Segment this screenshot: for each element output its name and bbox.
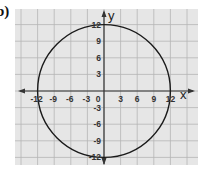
circle-graph: -12-9-6-3036912 12963-3-6-9-12 x y xyxy=(0,0,207,174)
x-tick-label: -12 xyxy=(30,94,43,104)
y-tick-label: 3 xyxy=(96,69,101,79)
y-tick-label: 12 xyxy=(92,20,102,30)
y-tick-label: -3 xyxy=(93,103,101,113)
x-tick-label: 9 xyxy=(151,94,156,104)
y-axis-label: y xyxy=(108,8,115,23)
y-tick-label: -6 xyxy=(93,119,101,129)
x-axis-label: x xyxy=(180,87,187,102)
x-tick-label: -6 xyxy=(66,94,74,104)
y-tick-label: 6 xyxy=(96,53,101,63)
y-tick-label: -12 xyxy=(89,152,102,162)
x-tick-label: 12 xyxy=(166,94,176,104)
x-tick-label: 6 xyxy=(135,94,140,104)
y-tick-label: -9 xyxy=(93,136,101,146)
x-tick-label: 3 xyxy=(118,94,123,104)
y-tick-label: 9 xyxy=(96,36,101,46)
x-tick-label: -3 xyxy=(83,94,91,104)
x-tick-label: -9 xyxy=(49,94,57,104)
